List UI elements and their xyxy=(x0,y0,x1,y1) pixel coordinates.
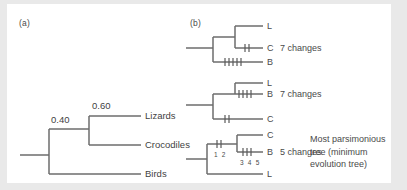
parsimony-note-line-3: evolution tree) xyxy=(310,158,407,171)
tree3-tick-numbers-lower: 3 4 5 xyxy=(240,160,260,167)
tree3-tick-numbers-upper: 1 2 xyxy=(214,152,227,159)
parsimony-note-line-1: Most parsimonious xyxy=(310,133,407,146)
tree3-tip-B: B xyxy=(267,148,273,157)
parsimony-note: Most parsimonious tree (minimum evolutio… xyxy=(310,133,407,171)
tree3-tip-C: C xyxy=(267,131,274,140)
figure-root: (a) 0.40 0.60 Lizards Crocodiles Birds (… xyxy=(0,0,407,190)
tree3-tip-L: L xyxy=(267,170,272,179)
parsimony-note-line-2: tree (minimum xyxy=(310,146,407,159)
figure-canvas: (a) 0.40 0.60 Lizards Crocodiles Birds (… xyxy=(7,4,391,183)
